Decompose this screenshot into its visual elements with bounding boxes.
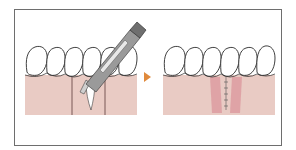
panel-after — [163, 46, 275, 115]
healing-tissue — [210, 77, 222, 113]
healing-tissue — [230, 77, 242, 113]
teeth-row-after — [164, 46, 275, 76]
panel-before — [25, 22, 146, 115]
gum-before — [25, 75, 137, 115]
arrow-right-icon — [144, 72, 151, 82]
procedure-illustration — [0, 0, 296, 150]
